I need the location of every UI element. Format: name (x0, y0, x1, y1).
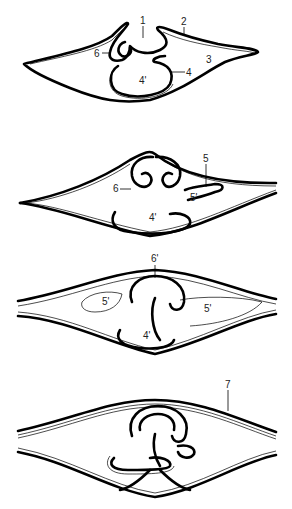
stage-4-panel (18, 390, 276, 497)
label-6-prime: 6' (151, 253, 159, 264)
label-4-prime: 4' (139, 75, 147, 86)
label-7: 7 (225, 379, 231, 390)
stage-2-panel (20, 152, 276, 236)
stage-1-panel (24, 23, 258, 102)
label-5-prime: 5' (102, 296, 110, 307)
label-5-prime: 5' (190, 192, 198, 203)
label-1: 1 (140, 15, 146, 26)
label-4-prime: 4' (143, 330, 151, 341)
label-5-prime: 5' (204, 303, 212, 314)
label-3: 3 (206, 54, 212, 65)
label-6: 6 (113, 183, 119, 194)
label-2: 2 (181, 16, 187, 27)
label-6: 6 (94, 48, 100, 59)
label-5: 5 (203, 153, 209, 164)
embryo-folding-diagram: 1 2 3 4 4' 6 5 6 5' 4' 6' 5' 5' 4' 7 (0, 0, 292, 509)
label-4: 4 (186, 67, 192, 78)
label-4-prime: 4' (149, 212, 157, 223)
